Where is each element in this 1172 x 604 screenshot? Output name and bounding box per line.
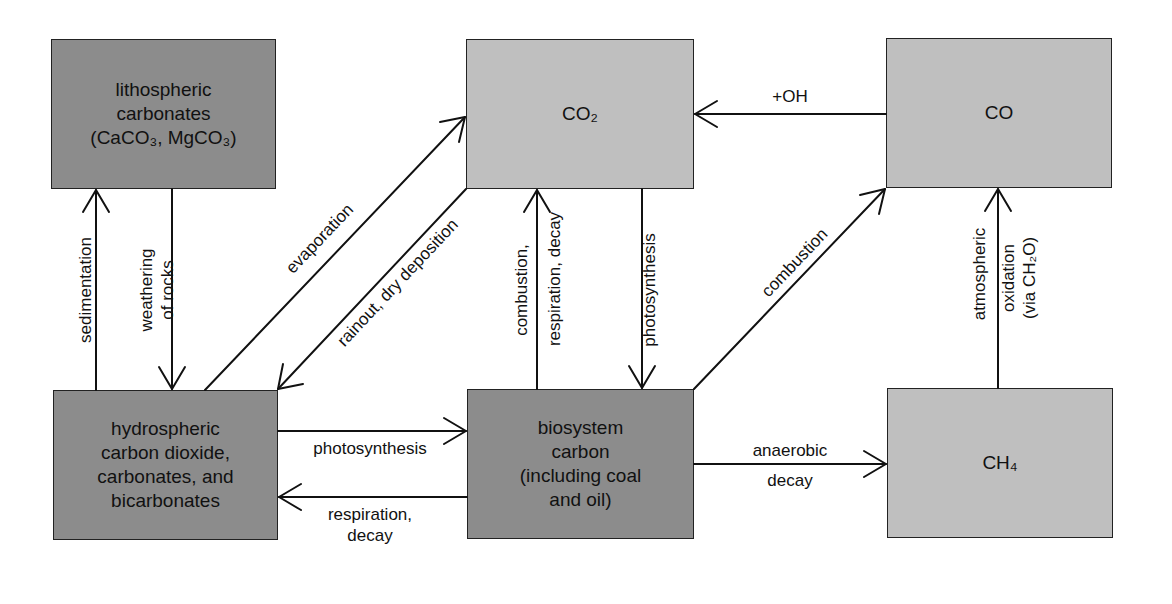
label-plus-oh: +OH: [750, 86, 830, 108]
label-respiration-decay-vertical: respiration, decay: [544, 194, 566, 364]
label-photosynthesis-horizontal: photosynthesis: [290, 438, 450, 460]
label-anaerobic-decay: anaerobic decay: [720, 436, 860, 486]
label-oxidation-via-ch2o: oxidation (via CH₂O): [998, 223, 1042, 333]
label-sedimentation: sedimentation: [75, 220, 97, 360]
label-atmospheric: atmospheric: [969, 214, 991, 334]
edge-rainout-arrow: [278, 189, 466, 389]
label-respiration-decay-horizontal: respiration, decay: [305, 504, 435, 548]
label-weathering-of-rocks: weathering of rocks: [136, 235, 180, 345]
label-combustion-comma: combustion,: [511, 220, 533, 360]
edge-combustion-diagonal-arrow: [694, 189, 885, 389]
label-photosynthesis-vertical: photosynthesis: [639, 225, 661, 355]
